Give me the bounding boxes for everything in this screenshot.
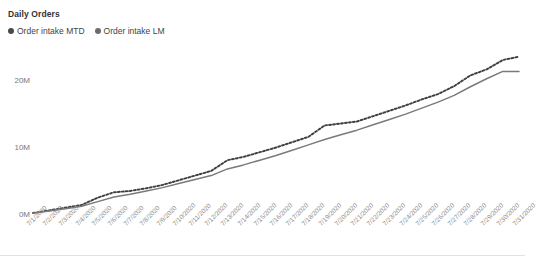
series-line	[33, 71, 519, 213]
y-axis-tick-label: 10M	[2, 143, 30, 152]
section-divider	[0, 255, 525, 256]
y-axis-tick-label: 0M	[2, 210, 30, 219]
series-line	[33, 57, 519, 213]
y-axis-tick-label: 20M	[2, 76, 30, 85]
